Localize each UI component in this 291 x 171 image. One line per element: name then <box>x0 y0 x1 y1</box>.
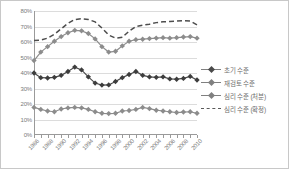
data-point-marker <box>72 28 77 33</box>
legend-item[interactable]: 초기 수준 <box>201 63 289 76</box>
data-point-marker <box>188 109 193 114</box>
data-point-marker <box>194 77 199 82</box>
data-point-marker <box>194 35 199 40</box>
data-point-marker <box>45 108 50 113</box>
data-point-marker <box>140 73 145 78</box>
series-layer <box>34 11 197 135</box>
data-point-marker <box>147 74 152 79</box>
legend-label: 심리 수준 (처분) <box>221 91 266 101</box>
data-point-marker <box>92 109 97 114</box>
data-point-marker <box>31 105 36 110</box>
data-point-marker <box>126 108 131 113</box>
data-point-marker <box>140 37 145 42</box>
data-point-marker <box>181 109 186 114</box>
x-axis-labels: 1986198819901992199419961998200020022004… <box>1 138 201 171</box>
data-point-marker <box>188 74 193 79</box>
data-point-marker <box>160 74 165 79</box>
data-point-marker <box>147 106 152 111</box>
data-point-marker <box>113 111 118 116</box>
data-point-marker <box>120 75 125 80</box>
y-axis-tick-label: 80% <box>21 8 32 14</box>
data-point-marker <box>160 35 165 40</box>
data-point-marker <box>52 109 57 114</box>
legend-label: 심리 수준 (확정) <box>221 104 266 114</box>
legend-marker-icon <box>201 65 221 74</box>
data-point-marker <box>133 37 138 42</box>
legend-item[interactable]: 심리 수준 (처분) <box>201 89 289 102</box>
y-axis-tick-label: 40% <box>21 70 32 76</box>
data-point-marker <box>65 105 70 110</box>
data-point-marker <box>99 82 104 87</box>
legend-marker-icon <box>201 78 221 87</box>
data-point-marker <box>120 108 125 113</box>
data-point-marker <box>181 34 186 39</box>
data-point-marker <box>45 75 50 80</box>
y-axis-tick-label: 30% <box>21 86 32 92</box>
data-point-marker <box>79 28 84 33</box>
legend-item[interactable]: 재검토 수준 <box>201 76 289 89</box>
data-point-marker <box>174 77 179 82</box>
data-point-marker <box>106 111 111 116</box>
data-point-marker <box>58 73 63 78</box>
legend-marker-icon <box>201 104 221 113</box>
y-axis-labels: 0%10%20%30%40%50%60%70%80% <box>1 11 32 135</box>
data-point-marker <box>174 110 179 115</box>
data-point-marker <box>174 35 179 40</box>
series-line <box>34 30 197 60</box>
data-point-marker <box>106 82 111 87</box>
data-point-marker <box>147 36 152 41</box>
y-axis-tick-label: 50% <box>21 55 32 61</box>
data-point-marker <box>99 111 104 116</box>
data-point-marker <box>126 72 131 77</box>
data-point-marker <box>86 107 91 112</box>
y-axis-tick-label: 70% <box>21 24 32 30</box>
plot-area <box>34 11 197 135</box>
data-point-marker <box>113 79 118 84</box>
data-point-marker <box>160 108 165 113</box>
data-point-marker <box>194 111 199 116</box>
data-point-marker <box>65 30 70 35</box>
chart-legend: 초기 수준재검토 수준심리 수준 (처분)심리 수준 (확정) <box>201 63 289 115</box>
legend-item[interactable]: 심리 수준 (확정) <box>201 102 289 115</box>
chart-container: 0%10%20%30%40%50%60%70%80% 1986198819901… <box>0 0 289 169</box>
data-point-marker <box>79 105 84 110</box>
y-axis-tick-label: 20% <box>21 101 32 107</box>
data-point-marker <box>188 34 193 39</box>
data-point-marker <box>140 105 145 110</box>
data-point-marker <box>167 35 172 40</box>
y-axis-tick-label: 10% <box>21 117 32 123</box>
data-point-marker <box>154 35 159 40</box>
data-point-marker <box>154 75 159 80</box>
data-point-marker <box>154 108 159 113</box>
series-line <box>34 19 197 41</box>
data-point-marker <box>52 75 57 80</box>
data-point-marker <box>167 76 172 81</box>
legend-label: 초기 수준 <box>221 65 249 75</box>
data-point-marker <box>58 106 63 111</box>
data-point-marker <box>181 76 186 81</box>
data-point-marker <box>133 69 138 74</box>
data-point-marker <box>38 107 43 112</box>
legend-label: 재검토 수준 <box>221 78 255 88</box>
y-axis-tick-label: 60% <box>21 39 32 45</box>
legend-marker-icon <box>201 91 221 100</box>
data-point-marker <box>72 105 77 110</box>
data-point-marker <box>133 107 138 112</box>
data-point-marker <box>167 109 172 114</box>
